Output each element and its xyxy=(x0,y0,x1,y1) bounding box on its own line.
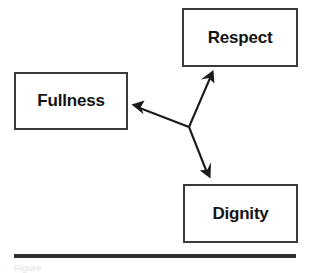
figure-canvas: Respect Fullness Dignity Figure xyxy=(0,0,310,273)
node-label-respect: Respect xyxy=(208,28,273,48)
node-label-dignity: Dignity xyxy=(212,204,268,224)
node-box-fullness: Fullness xyxy=(14,72,128,130)
node-box-respect: Respect xyxy=(182,8,298,67)
node-box-dignity: Dignity xyxy=(183,184,298,243)
figure-caption: Figure xyxy=(14,263,264,273)
arrow-hub-to-dignity xyxy=(189,127,211,179)
arrow-hub-to-fullness xyxy=(132,101,190,127)
horizontal-rule xyxy=(14,254,296,258)
node-label-fullness: Fullness xyxy=(37,91,104,111)
arrow-hub-to-respect xyxy=(189,70,214,127)
